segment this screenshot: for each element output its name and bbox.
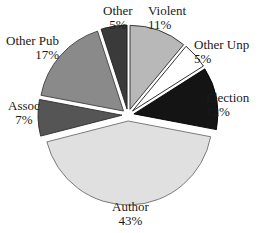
pie-label-election-percent: 12%: [206, 105, 249, 119]
pie-label-author: Author 43%: [112, 200, 149, 228]
pie-slice-author: [47, 121, 211, 205]
pie-label-assoc: Assoc 7%: [8, 99, 40, 127]
pie-label-other-pub-percent: 17%: [6, 48, 59, 62]
pie-label-author-percent: 43%: [112, 214, 149, 228]
pie-label-election: Election 12%: [206, 91, 249, 119]
pie-label-other: Other 5%: [103, 4, 133, 32]
pie-label-violent: Violent 11%: [148, 4, 186, 32]
pie-label-election-name: Election: [206, 91, 249, 105]
pie-label-other-pub: Other Pub 17%: [6, 34, 59, 62]
pie-label-other-unp: Other Unp 5%: [194, 38, 249, 66]
pie-label-assoc-percent: 7%: [8, 113, 40, 127]
pie-label-other-name: Other: [103, 4, 133, 18]
pie-label-violent-percent: 11%: [148, 18, 186, 32]
pie-label-assoc-name: Assoc: [8, 99, 40, 113]
pie-label-other-unp-percent: 5%: [194, 52, 249, 66]
pie-slice-group: [38, 25, 218, 205]
pie-label-violent-name: Violent: [148, 4, 186, 18]
pie-chart-figure: Types of Other 5% Violent 11% Other Unp …: [0, 0, 260, 233]
pie-label-other-unp-name: Other Unp: [194, 38, 249, 52]
pie-label-author-name: Author: [112, 200, 149, 214]
pie-label-other-percent: 5%: [103, 18, 133, 32]
pie-label-other-pub-name: Other Pub: [6, 34, 59, 48]
